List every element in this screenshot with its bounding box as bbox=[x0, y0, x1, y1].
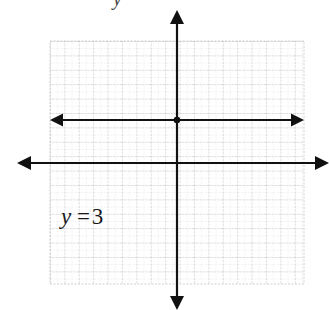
y-axis-up-arrow-icon bbox=[170, 10, 184, 24]
y-intercept-point bbox=[174, 117, 181, 124]
equation-label: y = 3 bbox=[61, 205, 103, 228]
coordinate-plane bbox=[0, 0, 329, 310]
equation-variable: y bbox=[61, 204, 71, 229]
cropped-top-text: y bbox=[113, 0, 122, 8]
equation-value: 3 bbox=[92, 204, 104, 229]
equation-operator: = bbox=[77, 204, 90, 229]
x-axis-right-arrow-icon bbox=[315, 156, 329, 170]
y-axis-down-arrow-icon bbox=[170, 296, 184, 310]
x-axis-left-arrow-icon bbox=[17, 156, 31, 170]
